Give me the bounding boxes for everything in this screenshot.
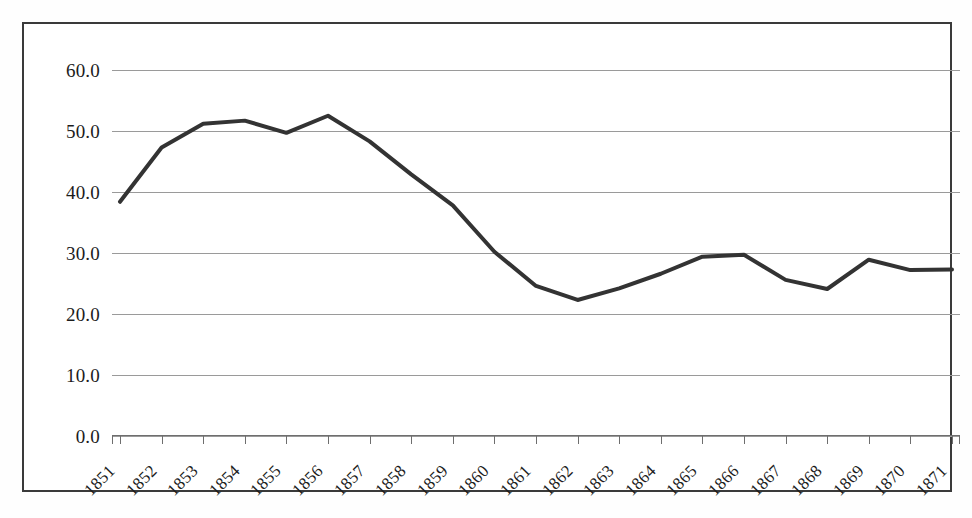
x-tick-label: 1870 (871, 461, 910, 500)
x-tick-label: 1869 (829, 461, 868, 500)
x-tick-label: 1863 (580, 461, 619, 500)
x-tick-label: 1853 (164, 461, 203, 500)
x-tick-label: 1859 (413, 461, 452, 500)
x-tick-label: 1865 (663, 461, 702, 500)
x-tick-label: 1866 (704, 461, 743, 500)
x-tick-label: 1854 (205, 461, 244, 500)
x-tick-label: 1852 (122, 461, 161, 500)
x-tick-label: 1871 (912, 461, 951, 500)
chart-frame: 60.050.040.030.020.010.00.0 185118521853… (22, 22, 952, 492)
x-tick-label: 1855 (247, 461, 286, 500)
y-tick-label: 10.0 (36, 366, 100, 385)
series-line (120, 116, 952, 300)
y-tick-label: 0.0 (36, 427, 100, 446)
line-series (112, 70, 960, 436)
x-tick-label: 1860 (455, 461, 494, 500)
y-tick-label: 20.0 (36, 305, 100, 324)
x-tick-label: 1867 (746, 461, 785, 500)
x-tick-label: 1861 (496, 461, 535, 500)
x-axis-labels: 1851185218531854185518561857185818591860… (112, 438, 960, 508)
y-tick-label: 50.0 (36, 122, 100, 141)
y-tick-label: 30.0 (36, 244, 100, 263)
x-tick-label: 1864 (621, 461, 660, 500)
x-tick-label: 1862 (538, 461, 577, 500)
x-tick-label: 1868 (788, 461, 827, 500)
y-tick-label: 40.0 (36, 183, 100, 202)
y-tick-label: 60.0 (36, 61, 100, 80)
x-tick-label: 1858 (372, 461, 411, 500)
y-axis-labels: 60.050.040.030.020.010.00.0 (36, 70, 100, 436)
x-tick-label: 1857 (330, 461, 369, 500)
x-tick-label: 1851 (80, 461, 119, 500)
x-tick-label: 1856 (288, 461, 327, 500)
chart-figure: 60.050.040.030.020.010.00.0 185118521853… (0, 0, 972, 518)
